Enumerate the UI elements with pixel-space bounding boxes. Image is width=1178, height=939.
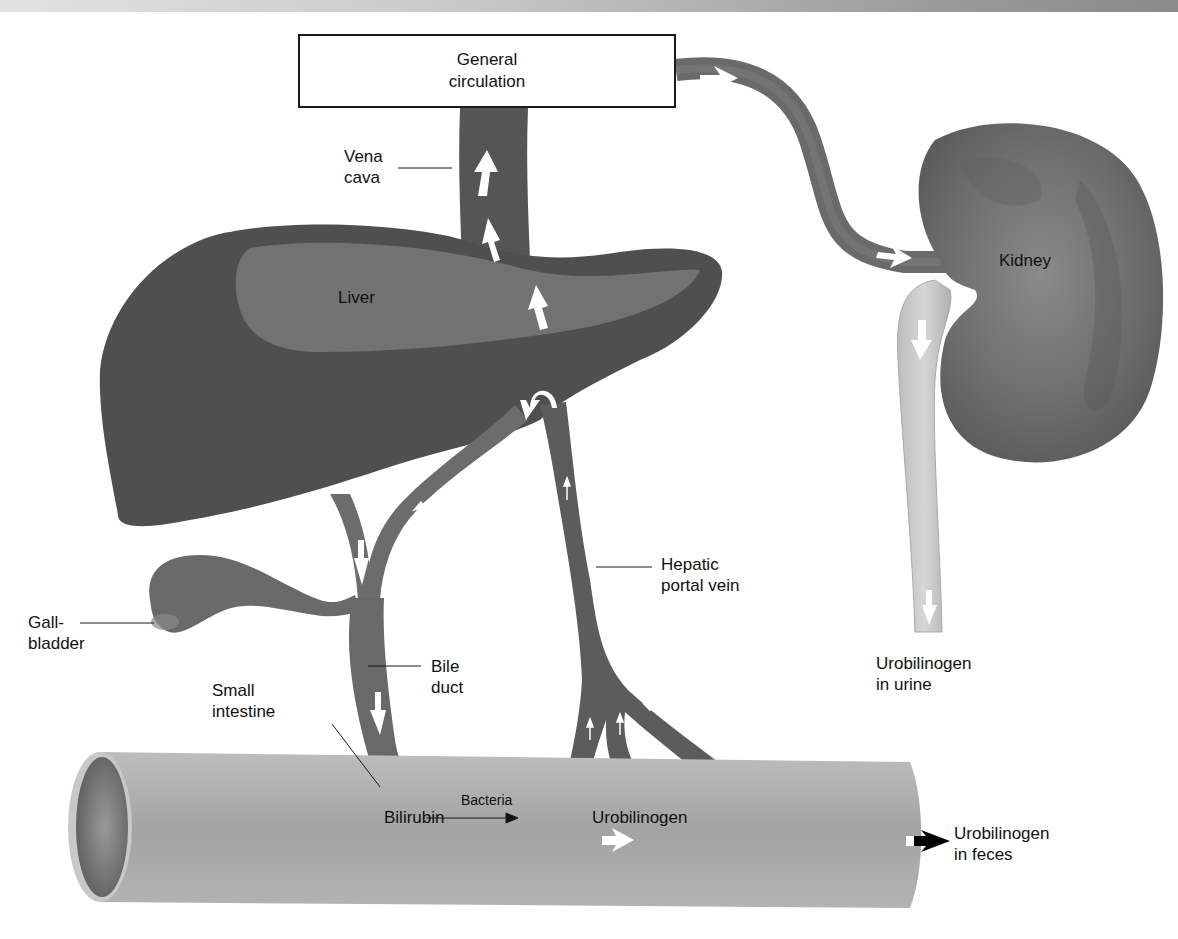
vena-cava-label: Venacava [344,146,383,188]
urobilinogen-urine-label: Urobilinogenin urine [876,653,971,695]
bacteria-label: Bacteria [461,792,512,808]
bilirubin-label: Bilirubin [384,807,444,828]
small-intestine [68,752,921,908]
renal-artery [676,68,950,262]
liver-label: Liver [338,287,375,308]
kidney [919,123,1164,462]
urobilinogen-label: Urobilinogen [592,807,687,828]
kidney-label: Kidney [999,250,1051,271]
box-line-2: circulation [449,72,526,91]
diagram-canvas [0,0,1178,939]
general-circulation-box: Generalcirculation [298,34,676,108]
urobilinogen-feces-label: Urobilinogenin feces [954,823,1049,865]
gallbladder-label: Gall-bladder [28,612,85,654]
flow-arrows [354,66,937,852]
box-line-1: General [457,50,517,69]
liver [100,225,722,527]
small-intestine-label: Smallintestine [212,680,275,722]
hepatic-portal-vein-label: Hepaticportal vein [661,554,739,596]
gallbladder [149,555,360,633]
bile-duct-label: Bileduct [431,656,463,698]
